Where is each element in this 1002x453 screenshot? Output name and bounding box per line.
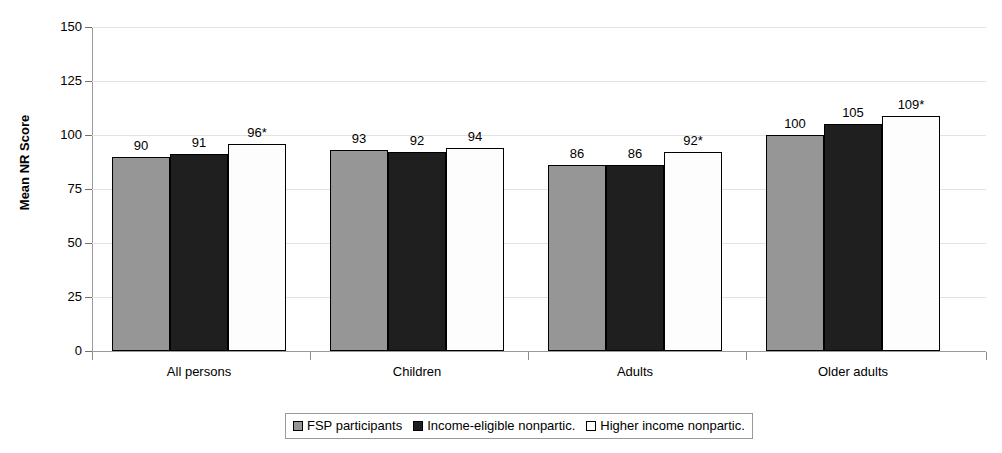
- bar-value-label: 94: [446, 130, 504, 143]
- x-axis-separator-tick: [986, 352, 987, 360]
- legend-item[interactable]: Income-eligible nonpartic.: [413, 419, 575, 433]
- y-axis-tick: [85, 351, 92, 352]
- bar-value-label: 105: [824, 106, 882, 119]
- x-axis-category-label: Older adults: [763, 364, 943, 379]
- bar-value-label: 92*: [664, 134, 722, 147]
- legend-item-label: Income-eligible nonpartic.: [427, 419, 575, 433]
- legend-item-label: Higher income nonpartic.: [600, 419, 745, 433]
- bar-value-label: 86: [548, 147, 606, 160]
- bar[interactable]: [112, 157, 170, 351]
- y-axis-tick: [85, 81, 92, 82]
- y-axis-tick: [85, 297, 92, 298]
- bar[interactable]: [824, 124, 882, 351]
- bar-value-label: 96*: [228, 126, 286, 139]
- bar-value-label: 93: [330, 132, 388, 145]
- x-axis-separator-tick: [310, 352, 311, 360]
- bar[interactable]: [766, 135, 824, 351]
- legend-item-label: FSP participants: [307, 419, 402, 433]
- legend-item[interactable]: Higher income nonpartic.: [586, 419, 745, 433]
- bar[interactable]: [330, 150, 388, 351]
- bar[interactable]: [664, 152, 722, 351]
- x-axis-category-label: Children: [327, 364, 507, 379]
- y-axis-tick-label: 25: [38, 290, 82, 303]
- legend-swatch-icon: [293, 421, 303, 431]
- bar-value-label: 109*: [882, 98, 940, 111]
- bar-value-label: 90: [112, 139, 170, 152]
- bar[interactable]: [882, 116, 940, 351]
- bar[interactable]: [228, 144, 286, 351]
- y-axis-tick: [85, 135, 92, 136]
- legend-swatch-icon: [413, 421, 423, 431]
- bar[interactable]: [170, 154, 228, 351]
- plot-area: 909196*939294868692*100105109*: [92, 27, 986, 351]
- y-axis-title: Mean NR Score: [17, 93, 32, 233]
- y-axis-tick-label: 50: [38, 236, 82, 249]
- bar[interactable]: [606, 165, 664, 351]
- x-axis-separator-tick: [528, 352, 529, 360]
- bar-value-label: 92: [388, 134, 446, 147]
- y-axis-tick: [85, 243, 92, 244]
- x-axis-separator-tick: [746, 352, 747, 360]
- y-axis-tick: [85, 189, 92, 190]
- legend-item[interactable]: FSP participants: [293, 419, 402, 433]
- legend-swatch-icon: [586, 421, 596, 431]
- y-axis-tick-label: 75: [38, 182, 82, 195]
- x-axis-separator-tick: [92, 352, 93, 360]
- y-axis-tick: [85, 27, 92, 28]
- bar[interactable]: [388, 152, 446, 351]
- gridline: [92, 351, 986, 352]
- y-axis-tick-label: 125: [38, 74, 82, 87]
- y-axis-tick-label: 150: [38, 20, 82, 33]
- y-axis-tick-label: 0: [38, 344, 82, 357]
- bar-value-label: 86: [606, 147, 664, 160]
- x-axis-category-label: Adults: [545, 364, 725, 379]
- bar[interactable]: [446, 148, 504, 351]
- chart-legend: FSP participantsIncome-eligible nonparti…: [285, 413, 753, 439]
- bar-value-label: 91: [170, 136, 228, 149]
- x-axis-category-label: All persons: [109, 364, 289, 379]
- y-axis-tick-label: 100: [38, 128, 82, 141]
- bar[interactable]: [548, 165, 606, 351]
- bar-chart: Mean NR Score 0255075100125150 909196*93…: [0, 0, 1002, 453]
- bar-value-label: 100: [766, 117, 824, 130]
